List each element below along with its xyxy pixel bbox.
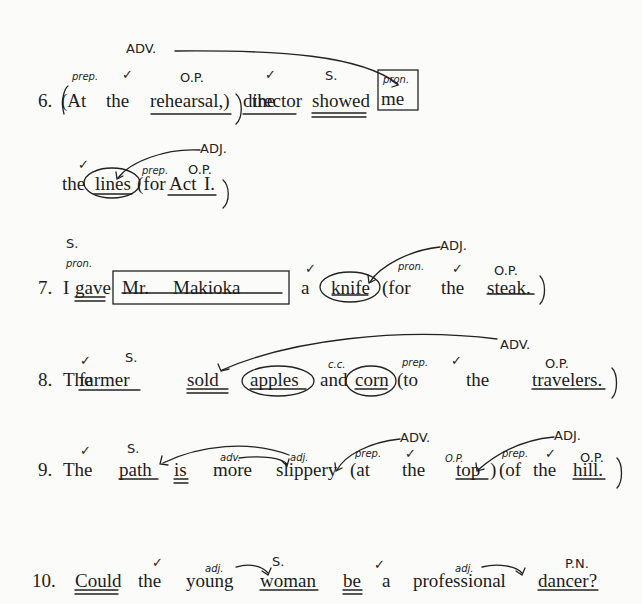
pron-label: pron. — [383, 74, 409, 86]
adv-arrow-6 — [175, 51, 398, 84]
adj-label: ADJ. — [200, 143, 227, 155]
word-gave: gave — [75, 277, 111, 299]
sentence-number: 9. — [38, 459, 52, 481]
word: the — [62, 173, 85, 195]
sentence-number: 7. — [38, 277, 52, 299]
word-top: top — [456, 459, 480, 481]
adv-label: ADV. — [400, 432, 430, 444]
pron-label: pron. — [66, 258, 92, 270]
word: the — [106, 90, 129, 112]
word: a — [301, 277, 309, 299]
sentence-number: 8. — [38, 369, 52, 391]
check-icon: ✓ — [122, 68, 133, 82]
word-showed: showed — [312, 90, 370, 112]
word: (at — [350, 459, 370, 481]
word: more — [213, 459, 252, 481]
word: a — [382, 570, 390, 592]
word-sold: sold — [187, 369, 219, 391]
word: The — [63, 459, 93, 481]
subject-label: S. — [125, 352, 137, 364]
word-be: be — [343, 570, 361, 592]
word-path: path — [119, 459, 152, 481]
subject-label: S. — [66, 238, 78, 250]
word: (to — [397, 369, 418, 391]
check-icon: ✓ — [265, 68, 276, 82]
word: (of — [499, 459, 521, 481]
word-slippery: slippery — [276, 459, 337, 481]
prep-label: prep. — [72, 71, 98, 83]
word-lines: lines — [95, 173, 131, 195]
word: I — [63, 277, 69, 299]
op-label: O.P. — [180, 72, 204, 84]
word: (for — [382, 277, 410, 299]
check-icon: ✓ — [78, 158, 89, 172]
adj-label: ADJ. — [554, 430, 581, 442]
word: (At — [61, 90, 86, 112]
word-me: me — [381, 88, 404, 110]
word: travelers. — [532, 369, 602, 391]
word-dancer: dancer? — [538, 570, 597, 592]
word: professional — [413, 570, 506, 592]
word: ) — [490, 459, 496, 481]
word: steak. — [487, 277, 531, 299]
word-director: director — [243, 90, 302, 112]
op-label: O.P. — [494, 265, 518, 277]
sentence-number: 6. — [38, 90, 52, 112]
predicate-noun-label: P.N. — [565, 558, 589, 570]
check-icon: ✓ — [452, 262, 463, 276]
word: the — [533, 459, 556, 481]
check-icon: ✓ — [451, 354, 462, 368]
word: and — [320, 369, 347, 391]
word-corn: corn — [355, 369, 389, 391]
subject-label: S. — [325, 70, 337, 82]
subject-label: S. — [127, 443, 139, 455]
sentence-number: 10. — [32, 570, 56, 592]
word: the — [138, 570, 161, 592]
check-icon: ✓ — [80, 444, 91, 458]
word: rehearsal,) — [150, 90, 230, 112]
check-icon: ✓ — [152, 556, 163, 570]
check-icon: ✓ — [80, 354, 91, 368]
pron-label: pron. — [398, 261, 424, 273]
adv-label: ADV. — [500, 339, 530, 351]
prep-label: prep. — [402, 357, 428, 369]
word: Act — [169, 173, 196, 195]
word: Mr. — [122, 277, 149, 299]
word: young — [186, 570, 234, 592]
word-hill: hill. — [573, 459, 603, 481]
check-icon: ✓ — [305, 262, 316, 276]
word: the — [441, 277, 464, 299]
word: (for — [137, 173, 165, 195]
word-knife: knife — [331, 277, 370, 299]
adv-label: ADV. — [126, 43, 156, 55]
word-farmer: farmer — [79, 369, 130, 391]
word-is: is — [174, 459, 187, 481]
word: the — [402, 459, 425, 481]
word-could: Could — [75, 570, 121, 592]
word-apples: apples — [250, 369, 299, 391]
word: Makioka — [173, 277, 241, 299]
subject-label: S. — [272, 556, 284, 568]
word: the — [466, 369, 489, 391]
word-woman: woman — [260, 570, 316, 592]
word: I. — [204, 173, 215, 195]
adj-label: ADJ. — [440, 240, 467, 252]
